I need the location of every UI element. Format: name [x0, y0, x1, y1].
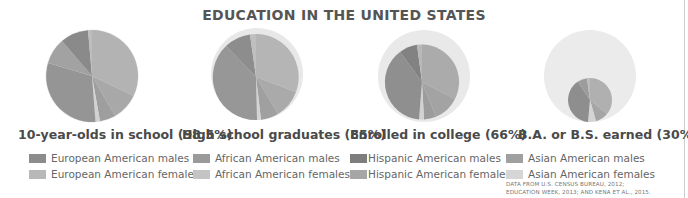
legend-swatch — [193, 154, 210, 163]
legend-swatch — [350, 154, 367, 163]
legend-swatch — [350, 170, 367, 179]
panel-label-high-school: High school graduates (85%) — [182, 127, 332, 142]
legend-label: African American males — [215, 152, 340, 164]
panel-label-college: Enrolled in college (66%) — [350, 127, 495, 142]
legend-swatch — [193, 170, 210, 179]
legend-item: African American males — [193, 150, 350, 166]
pie-charts — [0, 0, 688, 130]
legend-item: European American males — [29, 150, 199, 166]
legend-hispanic-american: Hispanic American males Hispanic America… — [350, 150, 511, 182]
source-note: DATA FROM U.S. CENSUS BUREAU, 2012; EDUC… — [506, 180, 651, 196]
legend-item: Hispanic American females — [350, 166, 511, 182]
pie-high-school-graduates — [211, 28, 303, 120]
source-line: EDUCATION WEEK, 2013; AND KENA ET AL., 2… — [506, 188, 651, 196]
legend-african-american: African American males African American … — [193, 150, 350, 182]
legend-item: European American females — [29, 166, 199, 182]
legend-item: Hispanic American males — [350, 150, 511, 166]
legend-label: Hispanic American females — [368, 168, 511, 180]
pie-10-year-olds — [46, 30, 139, 123]
legend-swatch — [506, 154, 523, 163]
legend-swatch — [506, 170, 523, 179]
legend-swatch — [29, 154, 46, 163]
legend-label: African American females — [215, 168, 350, 180]
panel-label-bachelors: B.A. or B.S. earned (30%) — [518, 127, 668, 142]
legend-label: European American females — [51, 168, 199, 180]
legend-label: Hispanic American males — [368, 152, 501, 164]
legend-label: Asian American females — [528, 168, 655, 180]
pie-enrolled-in-college — [378, 30, 470, 122]
legend-label: European American males — [51, 152, 189, 164]
legend-swatch — [29, 170, 46, 179]
legend-item: Asian American males — [506, 150, 655, 166]
pie-bachelors-earned — [544, 30, 636, 122]
legend-label: Asian American males — [528, 152, 645, 164]
legend-asian-american: Asian American males Asian American fema… — [506, 150, 655, 182]
legend-european-american: European American males European America… — [29, 150, 199, 182]
source-line: DATA FROM U.S. CENSUS BUREAU, 2012; — [506, 180, 651, 188]
panel-label-10-year-olds: 10-year-olds in school (98.5%) — [18, 127, 176, 142]
legend-item: African American females — [193, 166, 350, 182]
